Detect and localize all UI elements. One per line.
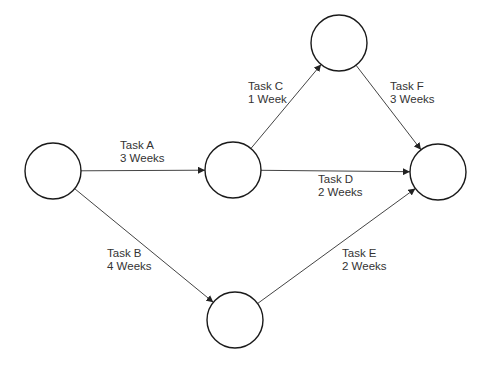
task-f-name: Task F	[390, 80, 435, 93]
task-f-duration: 3 Weeks	[390, 93, 435, 106]
node-n4	[410, 144, 466, 200]
edge-task-f-arrow	[356, 65, 421, 150]
edge-task-b-arrow	[75, 189, 214, 303]
task-e-label: Task E2 Weeks	[342, 247, 387, 273]
task-d-label: Task D2 Weeks	[318, 173, 363, 199]
network-diagram	[0, 0, 491, 368]
task-b-label: Task B4 Weeks	[107, 247, 152, 273]
task-f-label: Task F3 Weeks	[390, 80, 435, 106]
task-c-label: Task C1 Week	[248, 80, 287, 106]
node-n5	[207, 292, 263, 348]
task-a-label: Task A3 Weeks	[120, 139, 165, 165]
task-d-name: Task D	[318, 173, 363, 186]
node-n1	[25, 143, 81, 199]
task-e-name: Task E	[342, 247, 387, 260]
task-d-duration: 2 Weeks	[318, 186, 363, 199]
task-a-name: Task A	[120, 139, 165, 152]
task-a-duration: 3 Weeks	[120, 152, 165, 165]
task-e-duration: 2 Weeks	[342, 260, 387, 273]
edge-task-a-arrow	[81, 170, 205, 171]
edge-task-e-arrow	[258, 189, 416, 304]
task-b-name: Task B	[107, 247, 152, 260]
node-n3	[311, 15, 367, 71]
edge-task-c-arrow	[251, 65, 321, 149]
edge-task-d-arrow	[261, 170, 410, 171]
node-n2	[205, 142, 261, 198]
task-c-duration: 1 Week	[248, 93, 287, 106]
task-c-name: Task C	[248, 80, 287, 93]
task-b-duration: 4 Weeks	[107, 260, 152, 273]
